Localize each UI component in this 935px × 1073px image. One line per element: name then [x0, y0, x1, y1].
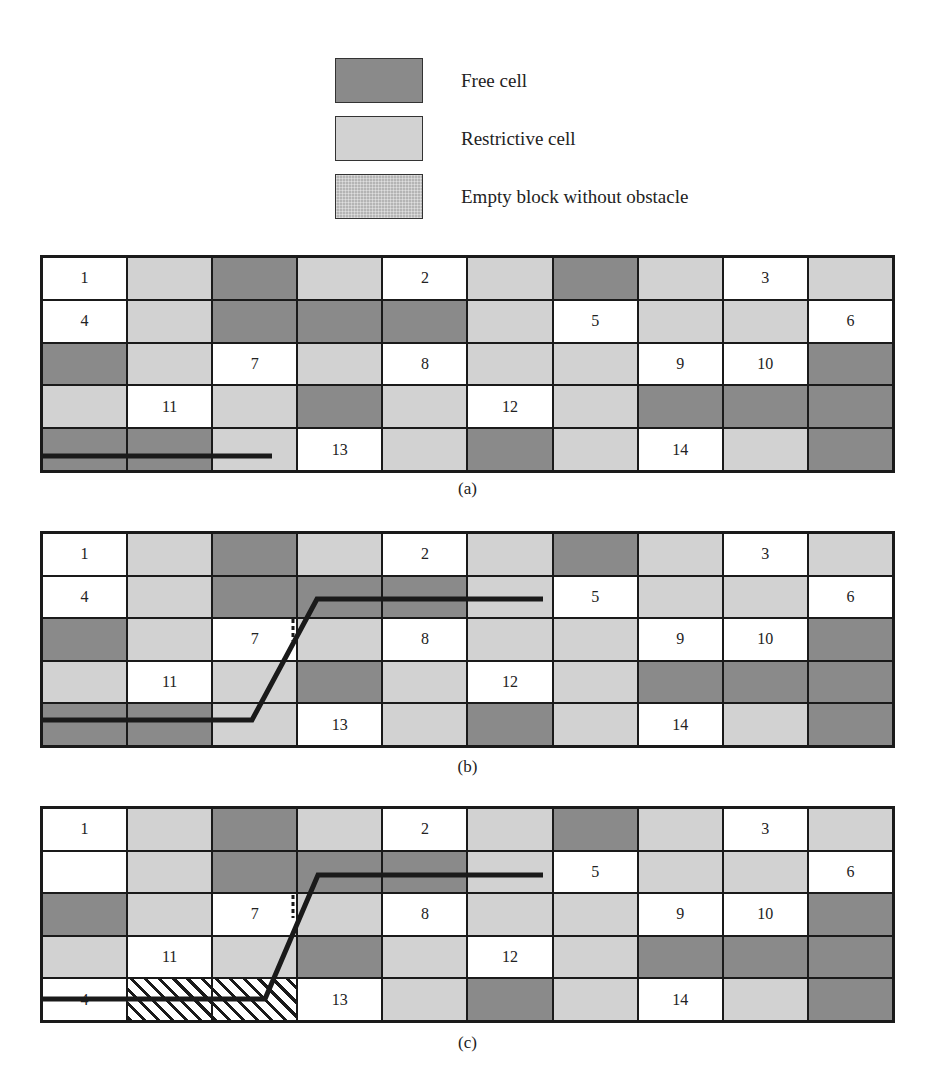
restrictive-cell — [724, 429, 807, 470]
restrictive-cell — [639, 534, 722, 575]
restrictive-cell — [809, 809, 892, 850]
free-cell — [468, 704, 551, 745]
free-cell — [213, 852, 296, 893]
numbered-cell: 3 — [724, 534, 807, 575]
restrictive-cell — [724, 301, 807, 342]
restrictive-cell — [724, 704, 807, 745]
restrictive-cell — [639, 577, 722, 618]
numbered-cell: 7 — [213, 344, 296, 385]
free-cell — [43, 894, 126, 935]
free-cell — [809, 704, 892, 745]
free-cell — [298, 386, 381, 427]
free-cell — [554, 534, 637, 575]
restrictive-cell — [554, 662, 637, 703]
numbered-cell: 9 — [639, 894, 722, 935]
numbered-cell: 7 — [213, 619, 296, 660]
numbered-cell: 4 — [43, 979, 126, 1020]
numbered-cell: 10 — [724, 894, 807, 935]
restrictive-cell — [128, 577, 211, 618]
free-cell — [43, 619, 126, 660]
restrictive-cell — [724, 852, 807, 893]
restrictive-cell — [724, 979, 807, 1020]
free-cell — [298, 937, 381, 978]
restrictive-cell — [468, 344, 551, 385]
numbered-cell: 8 — [383, 344, 466, 385]
free-cell — [213, 534, 296, 575]
restrictive-cell — [213, 662, 296, 703]
numbered-cell: 13 — [298, 704, 381, 745]
numbered-cell: 2 — [383, 258, 466, 299]
panel-b: 1234567891011121314 — [40, 531, 895, 748]
empty-block-cell — [213, 979, 296, 1020]
free-cell — [809, 619, 892, 660]
numbered-cell: 7 — [213, 894, 296, 935]
free-cell — [554, 809, 637, 850]
restrictive-cell — [554, 429, 637, 470]
panel-caption: (b) — [0, 757, 935, 777]
free-cell — [809, 386, 892, 427]
free-cell — [43, 704, 126, 745]
numbered-cell: 12 — [468, 937, 551, 978]
free-cell — [128, 429, 211, 470]
restrictive-cell — [128, 301, 211, 342]
restrictive-cell — [383, 662, 466, 703]
free-cell — [724, 937, 807, 978]
free-cell — [809, 979, 892, 1020]
restrictive-cell — [383, 937, 466, 978]
free-cell-swatch — [335, 58, 423, 103]
numbered-cell: 12 — [468, 662, 551, 703]
cell-grid: 1234567891011121314 — [40, 531, 895, 748]
legend-label: Empty block without obstacle — [461, 186, 688, 208]
restrictive-cell — [554, 619, 637, 660]
free-cell — [554, 258, 637, 299]
numbered-cell: 8 — [383, 619, 466, 660]
numbered-cell: 1 — [43, 258, 126, 299]
free-cell — [43, 344, 126, 385]
free-cell — [43, 429, 126, 470]
free-cell — [213, 301, 296, 342]
numbered-cell: 11 — [128, 662, 211, 703]
restrictive-cell — [213, 704, 296, 745]
restrictive-cell — [639, 809, 722, 850]
free-cell — [383, 301, 466, 342]
legend-item-restrictive-cell: Restrictive cell — [335, 116, 755, 164]
numbered-cell: 14 — [639, 429, 722, 470]
restrictive-cell — [724, 577, 807, 618]
free-cell — [213, 258, 296, 299]
free-cell — [383, 577, 466, 618]
restrictive-cell — [128, 894, 211, 935]
numbered-cell: 1 — [43, 809, 126, 850]
free-cell — [468, 429, 551, 470]
panel-caption: (c) — [0, 1033, 935, 1053]
restrictive-cell — [298, 809, 381, 850]
free-cell — [639, 386, 722, 427]
free-cell — [213, 577, 296, 618]
legend-item-empty-block: Empty block without obstacle — [335, 174, 755, 222]
restrictive-cell — [128, 534, 211, 575]
restrictive-cell — [809, 258, 892, 299]
legend-label: Free cell — [461, 70, 527, 92]
free-cell — [639, 662, 722, 703]
restrictive-cell — [554, 979, 637, 1020]
restrictive-cell — [554, 937, 637, 978]
free-cell — [809, 937, 892, 978]
free-cell — [724, 662, 807, 703]
numbered-cell: 2 — [383, 534, 466, 575]
restrictive-cell — [128, 258, 211, 299]
numbered-cell: 6 — [809, 852, 892, 893]
restrictive-cell — [298, 534, 381, 575]
panel-a: 1234567891011121314 — [40, 255, 895, 473]
restrictive-cell-swatch — [335, 116, 423, 161]
free-cell — [298, 852, 381, 893]
restrictive-cell — [128, 619, 211, 660]
numbered-cell: 14 — [639, 704, 722, 745]
restrictive-cell — [213, 937, 296, 978]
restrictive-cell — [639, 258, 722, 299]
numbered-cell: 6 — [809, 301, 892, 342]
numbered-cell: 3 — [724, 258, 807, 299]
restrictive-cell — [468, 809, 551, 850]
cell-grid: 1235678910111241314 — [40, 806, 895, 1023]
free-cell — [128, 704, 211, 745]
numbered-cell: 11 — [128, 386, 211, 427]
restrictive-cell — [298, 258, 381, 299]
